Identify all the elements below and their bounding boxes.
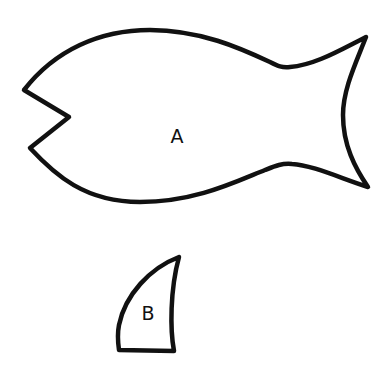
shape-label-b: B xyxy=(141,302,154,324)
shape-a-fish: A xyxy=(24,30,368,202)
shape-b-fin: B xyxy=(118,257,179,351)
pattern-canvas: A B xyxy=(0,0,392,368)
shape-label-a: A xyxy=(171,125,184,147)
fish-outline xyxy=(24,30,368,202)
